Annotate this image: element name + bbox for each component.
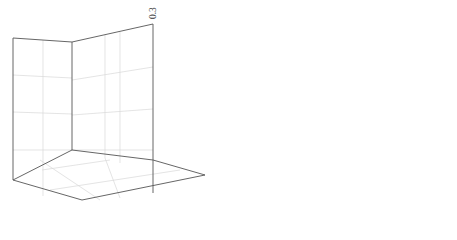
right-wall-grid: [72, 32, 153, 163]
left-wall-grid: [13, 40, 72, 196]
figure: 0.3: [0, 0, 457, 240]
x-tick-end-0.3: 0.3: [148, 7, 158, 19]
panel-a: 0.3: [13, 7, 205, 200]
axis-ticks: 0.3: [148, 7, 158, 19]
